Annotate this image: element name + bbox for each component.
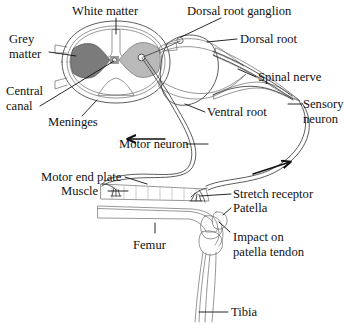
arrow-right-icon [253,162,290,174]
label-impact-line2: patella tendon [233,245,305,259]
stretch-receptor-shape [190,188,207,202]
meninges-tab-lower-left [55,78,67,89]
reflex-arc-figure: White matter Grey matter Central canal M… [0,0,344,329]
leader-impact [219,222,230,232]
label-sensory-neuron-line1: Sensory [303,97,344,111]
leader-patella [223,208,231,215]
label-spinal-nerve: Spinal nerve [258,70,322,84]
leader-ventral-root [185,104,205,112]
leader-stretch-receptor [200,194,231,196]
label-grey-matter-line1: Grey [9,32,35,46]
diagram-canvas: White matter Grey matter Central canal M… [0,0,344,329]
label-dorsal-root-ganglion: Dorsal root ganglion [187,4,292,18]
dorsal-root-ganglion-body [177,37,183,43]
motor-end-plate-shape [102,184,121,196]
motor-neuron-cell-body [138,54,145,61]
label-central-canal-line2: canal [6,99,33,113]
label-femur: Femur [133,238,167,252]
label-white-matter: White matter [72,4,139,18]
label-tibia: Tibia [231,305,258,319]
spinal-nerve-trunk-lower [214,82,300,101]
grey-matter-left [71,44,110,79]
tibia-outer-edge [212,252,216,322]
leg-group [98,184,227,322]
label-motor-end-plate: Motor end plate [41,170,122,184]
leader-dorsal-root [207,39,237,42]
femur-shape [98,206,218,232]
label-patella: Patella [233,201,268,215]
label-grey-matter-line2: matter [9,47,42,61]
ventral-median-fissure [98,78,134,95]
label-ventral-root: Ventral root [207,105,267,119]
label-muscle: Muscle [61,184,98,198]
label-impact-line1: Impact on [233,230,284,244]
label-motor-neuron: Motor neuron [119,137,189,151]
label-dorsal-root: Dorsal root [240,32,298,46]
leader-dorsal-root-ganglion [181,18,221,37]
femur-highlight [98,209,213,223]
label-meninges: Meninges [48,115,98,129]
label-central-canal-line1: Central [6,84,44,98]
leader-meninges [82,100,97,116]
motor-neuron-axon-edge [102,58,196,186]
label-sensory-neuron-line2: neuron [303,112,339,126]
label-stretch-receptor: Stretch receptor [233,187,314,201]
muscle-shape [101,184,209,201]
labels-group: White matter Grey matter Central canal M… [6,4,344,319]
muscle-striations [112,185,196,200]
